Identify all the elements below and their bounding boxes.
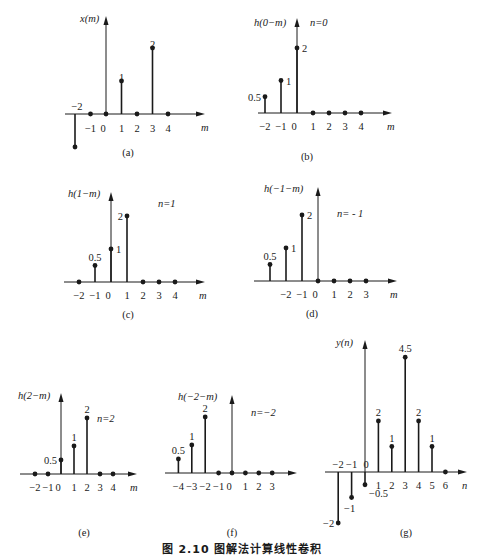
stem-plot-c: −2−1012340.512h(1−m)mn=1(c) [64, 188, 207, 321]
tick-label: −3 [186, 481, 197, 492]
tick-label: 1 [124, 290, 129, 301]
tick-label: 3 [403, 480, 408, 491]
x-axis-arrow-icon [388, 279, 397, 284]
panel-label: (g) [400, 527, 413, 539]
tick-label: 0 [312, 289, 317, 300]
figure-caption: 图 2.10 图解法计算线性卷积 [0, 540, 484, 556]
stem-dot [243, 471, 248, 476]
tick-label: 3 [342, 121, 347, 132]
value-label: −0.5 [369, 488, 388, 499]
tick-label: 2 [140, 290, 145, 301]
stem-plot-f: −4−3−2−101230.512h(−2−m)n=−2(f) [165, 391, 297, 539]
tick-label: 5 [429, 480, 434, 491]
stem-dot [125, 214, 130, 219]
x-axis-arrow-icon [458, 470, 467, 475]
stem-plot-e: −2−1012340.512h(2−m)mn=2(e) [18, 390, 138, 539]
value-label: 0.5 [172, 445, 185, 456]
tick-label: 2 [347, 289, 352, 300]
x-axis-arrow-icon [383, 111, 392, 116]
y-axis-arrow-icon [59, 393, 64, 402]
value-label: 2 [302, 43, 307, 54]
tick-label: −2 [259, 121, 270, 132]
panel-label: (d) [306, 308, 319, 320]
stem-dot [364, 279, 369, 284]
tick-label: 1 [71, 482, 76, 493]
stem-dot [268, 262, 273, 267]
tick-label: 2 [134, 123, 139, 134]
stem-dot [256, 471, 261, 476]
n-value-label: n=2 [97, 413, 115, 424]
value-label: 2 [150, 39, 155, 50]
tick-label: 0 [363, 459, 368, 470]
tick-label: 2 [326, 121, 331, 132]
value-label: 0.5 [263, 251, 276, 262]
stem-dot [157, 280, 162, 285]
stem-dot [135, 112, 140, 117]
stem-dot [332, 279, 337, 284]
stem-dot [284, 246, 289, 251]
stem-dot [141, 280, 146, 285]
n-value-label: n=1 [158, 198, 176, 209]
stem-dot [349, 495, 354, 500]
x-axis-label: m [201, 122, 209, 133]
tick-label: −1 [89, 290, 100, 301]
x-axis-label: m [130, 482, 138, 493]
value-label: 0.5 [248, 92, 261, 103]
value-label: 1 [189, 431, 194, 442]
stem-dot [85, 416, 90, 421]
stem-dot [73, 145, 78, 150]
stem-dot [416, 419, 421, 424]
value-label: −2 [323, 518, 334, 529]
panel-label: (b) [301, 151, 314, 163]
value-label: −1 [344, 503, 355, 514]
stem-dot [216, 471, 221, 476]
y-axis-arrow-icon [104, 16, 109, 25]
tick-label: −1 [275, 121, 286, 132]
x-axis-label: m [199, 290, 207, 301]
stem-dot [98, 472, 103, 477]
x-axis-label: m [387, 121, 395, 132]
stem-dot [189, 443, 194, 448]
tick-label: 1 [310, 121, 315, 132]
stem-dot [77, 280, 82, 285]
stem-dot [389, 444, 394, 449]
convolution-figure: −101234−212x(m)m(a)−2−1012340.512h(0−m)m… [0, 0, 484, 558]
stem-dot [336, 521, 341, 526]
tick-label: −2 [280, 289, 291, 300]
tick-label: −2 [29, 482, 40, 493]
stem-dot [316, 279, 321, 284]
stem-dot [59, 458, 64, 463]
tick-label: 1 [119, 123, 124, 134]
stem-dot [348, 279, 353, 284]
tick-label: 3 [363, 289, 368, 300]
x-axis-label: m [390, 289, 398, 300]
stem-plot-g: −2−10123456−2−1−0.5214.521y(n)n(g) [323, 337, 467, 539]
panel-label: (e) [78, 527, 90, 539]
y-axis-label: x(m) [79, 13, 100, 25]
tick-label: −2 [200, 481, 211, 492]
tick-label: 2 [84, 482, 89, 493]
stem-dot [343, 111, 348, 116]
stem-dot [295, 46, 300, 51]
value-label: 0.5 [88, 252, 101, 263]
value-label: 1 [291, 243, 296, 254]
tick-label: −2 [333, 459, 344, 470]
tick-label: 4 [416, 480, 422, 491]
y-axis-arrow-icon [230, 395, 235, 404]
n-value-label: n=0 [310, 17, 328, 28]
y-axis-arrow-icon [295, 18, 300, 27]
x-axis-label: n [462, 480, 467, 491]
value-label: 1 [119, 72, 124, 83]
stem-dot [279, 78, 284, 83]
x-axis-arrow-icon [196, 112, 205, 117]
value-label: 1 [71, 432, 76, 443]
value-label: 4.5 [399, 343, 412, 354]
tick-label: −1 [213, 481, 224, 492]
y-axis-label: h(1−m) [68, 188, 101, 200]
panel-label: (a) [122, 147, 134, 159]
n-value-label: n= - 1 [337, 208, 363, 219]
stem-dot [166, 112, 171, 117]
stem-dot [311, 111, 316, 116]
tick-label: −1 [296, 289, 307, 300]
value-label: 1 [429, 433, 434, 444]
